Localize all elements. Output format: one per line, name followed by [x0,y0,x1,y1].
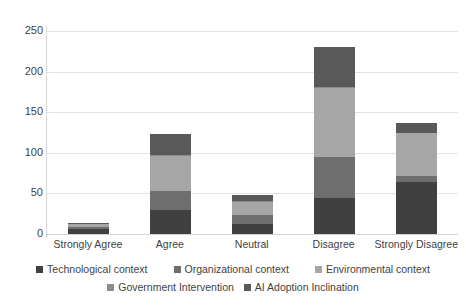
category-label: Strongly Disagree [375,238,458,254]
bar-slot [129,31,211,234]
legend-swatch-icon [174,266,181,273]
legend-item[interactable]: Technological context [36,263,147,275]
legend-swatch-icon [107,284,114,291]
category-label: Disagree [293,238,375,254]
value-axis-tick-200: 200 [5,66,43,77]
bar-segment[interactable] [396,123,437,133]
legend-swatch-icon [315,266,322,273]
bar-segment[interactable] [150,156,191,191]
bar-slot [376,31,458,234]
legend-row-primary: Technological contextOrganizational cont… [0,261,466,277]
bar-slot [47,31,129,234]
value-axis-tick-150: 150 [5,106,43,117]
bar-segment[interactable] [150,191,191,210]
bar-segment[interactable] [232,224,273,234]
bar-segment[interactable] [396,133,437,175]
bar-segment[interactable] [150,134,191,155]
bar-segment[interactable] [314,88,355,157]
legend-item[interactable]: Government Intervention [107,281,234,293]
stacked-bar[interactable] [68,223,109,234]
gridline-0 [47,234,458,235]
bar-segment[interactable] [150,210,191,234]
value-axis-tick-250: 250 [5,25,43,36]
stacked-bar[interactable] [314,47,355,234]
bar-segment[interactable] [314,157,355,198]
bar-slot [211,31,293,234]
stacked-bar[interactable] [150,134,191,234]
bar-segment[interactable] [232,215,273,224]
category-label: Agree [129,238,211,254]
legend-label: AI Adoption Inclination [255,281,359,293]
bars-group [47,31,458,234]
bar-segment[interactable] [232,202,273,216]
bar-segment[interactable] [314,47,355,87]
legend-label: Organizational context [185,263,289,275]
stacked-bar[interactable] [232,195,273,234]
legend-label: Government Intervention [118,281,234,293]
legend-item[interactable]: AI Adoption Inclination [244,281,359,293]
legend-swatch-icon [36,266,43,273]
stacked-bar-chart: 050100150200250 Strongly AgreeAgreeNeutr… [0,0,466,307]
value-axis-tick-100: 100 [5,147,43,158]
category-label: Neutral [211,238,293,254]
legend-label: Technological context [47,263,147,275]
bar-slot [294,31,376,234]
bar-segment[interactable] [314,198,355,234]
legend-swatch-icon [244,284,251,291]
legend-item[interactable]: Environmental context [315,263,430,275]
legend-row-secondary: Government InterventionAI Adoption Incli… [0,279,466,295]
legend-label: Environmental context [326,263,430,275]
value-axis-tick-0: 0 [5,228,43,239]
plot-area [47,31,458,234]
value-axis-labels: 050100150200250 [0,31,43,234]
category-axis-labels: Strongly AgreeAgreeNeutralDisagreeStrong… [47,238,458,254]
legend-item[interactable]: Organizational context [174,263,289,275]
bar-segment[interactable] [396,182,437,234]
bar-segment[interactable] [68,229,109,234]
value-axis-tick-50: 50 [5,187,43,198]
chart-legend: Technological contextOrganizational cont… [0,261,466,295]
category-label: Strongly Agree [47,238,129,254]
stacked-bar[interactable] [396,123,437,234]
